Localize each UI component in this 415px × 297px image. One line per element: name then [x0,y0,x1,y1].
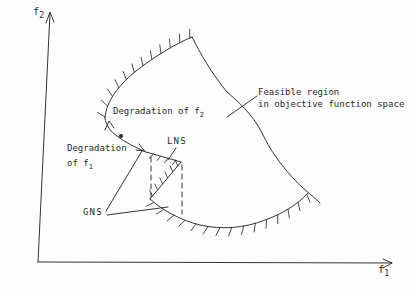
hatch-tick [254,223,255,232]
hatch-tick [132,64,134,73]
gns-leader-line-upper [106,151,142,211]
notch-left-edge [150,162,181,199]
lns-label: LNS [167,136,187,147]
hatch-tick [101,100,107,106]
boundary-bottom-pareto-front [150,193,308,228]
degradation-f1-label-line2: of f1 [67,158,93,169]
hatch-tick [298,202,300,211]
hatch-tick [216,228,220,236]
hatch-tick [115,80,119,88]
hatch-tick [155,184,158,190]
boundary-right [192,37,320,203]
hatch-tick [307,194,310,202]
objective-space-diagram: f2 f1 Degradation of f2 Degradation of f… [0,0,415,297]
lns-leader-line [168,148,176,160]
hatch-tick [97,113,105,117]
degradation-f2-label: Degradation of f2 [113,106,204,117]
hatch-tick [157,156,161,160]
feasible-region-leader-line [227,96,257,117]
hatch-tick [160,178,163,184]
gns-label: GNS [83,207,103,218]
hatch-tick [266,219,267,228]
hatch-tick [150,51,152,60]
hatch-tick [156,209,163,214]
reference-point-marker [119,134,123,138]
hatch-tick [203,227,208,234]
hatch-tick [165,158,169,162]
y-axis-label: f2 [33,6,44,17]
hatch-tick [229,228,232,236]
feasible-region-label-line2: in objective function space [258,99,404,110]
diagram-canvas [0,0,415,297]
hatch-tick [165,172,168,178]
hatch-tick [242,226,244,235]
degradation-f1-label-line1: Degradation [67,143,127,154]
x-axis [38,262,392,263]
hatch-tick [146,202,154,206]
y-axis [38,13,50,262]
hatch-tick [167,215,174,221]
hatch-tick [141,57,143,65]
x-axis-label: f1 [378,264,389,275]
hatch-tick [160,45,161,54]
hatch-tick [169,39,170,48]
hatch-tick [123,72,126,80]
gns-leader-line-lower [107,207,168,215]
hatch-tick [179,220,185,226]
hatch-tick [191,224,197,231]
hatch-tick [170,166,173,172]
hatch-tick [288,209,289,218]
feasible-region-label-line1: Feasible region [258,87,339,98]
hatch-tick [179,34,180,43]
hatch-tick [108,89,113,96]
